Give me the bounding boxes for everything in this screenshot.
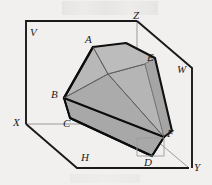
label-V: V (30, 27, 37, 38)
label-D: D (144, 157, 152, 168)
label-W: W (177, 64, 186, 75)
solid-body (64, 43, 172, 156)
label-B: B (51, 89, 58, 100)
label-Y: Y (194, 162, 200, 173)
label-Z: Z (133, 10, 139, 21)
label-H: H (81, 152, 89, 163)
label-E: E (147, 52, 154, 63)
label-A: A (85, 34, 92, 45)
label-C: C (63, 118, 70, 129)
label-X: X (13, 117, 20, 128)
label-F: F (167, 128, 174, 139)
